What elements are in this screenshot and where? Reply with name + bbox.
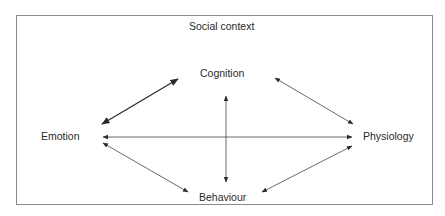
arrow-cognition-emotion <box>102 79 178 124</box>
arrow-emotion-behaviour <box>103 143 188 192</box>
arrow-cognition-physiology <box>275 78 353 124</box>
arrow-behaviour-physiology <box>262 146 352 192</box>
arrows-layer <box>0 0 445 216</box>
